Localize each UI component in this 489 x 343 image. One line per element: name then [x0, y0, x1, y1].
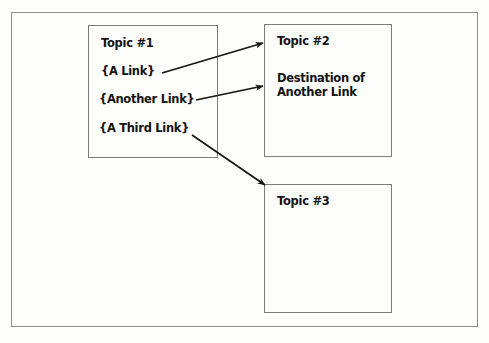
link-item-another-link[interactable]: {Another Link} — [99, 93, 194, 107]
link-item-a-link[interactable]: {A Link} — [101, 65, 155, 79]
topic1-title: Topic #1 — [101, 37, 153, 51]
link-item-a-third-link[interactable]: {A Third Link} — [99, 122, 189, 136]
topic2-destination-line1: Destination of — [277, 71, 365, 85]
outer-frame — [11, 12, 478, 327]
diagram-canvas: Topic #1 {A Link} {Another Link} {A Thir… — [0, 0, 489, 343]
topic2-destination-line2: Another Link — [277, 85, 357, 99]
topic2-destination-text: Destination ofAnother Link — [277, 71, 365, 100]
topic3-title: Topic #3 — [277, 195, 329, 209]
topic2-title: Topic #2 — [277, 35, 329, 49]
